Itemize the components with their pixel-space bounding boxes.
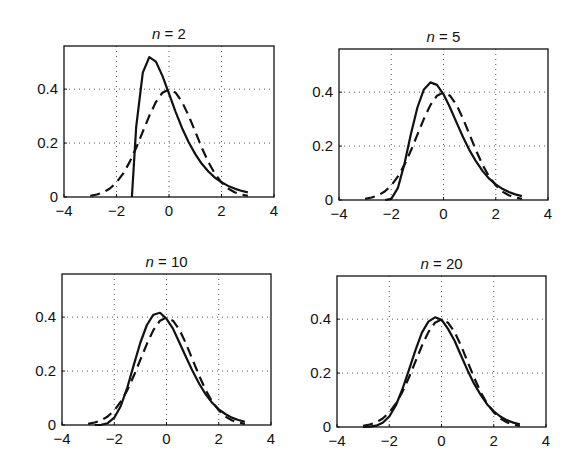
- y-tick-label: 0: [48, 416, 56, 433]
- x-tick-label: 4: [542, 432, 550, 449]
- y-tick-label: 0.2: [37, 134, 58, 151]
- x-tick-label: 2: [492, 205, 500, 222]
- subplot-n20: n = 20 −4−202400.20.4: [310, 255, 550, 449]
- x-tick-label: −4: [53, 430, 70, 447]
- y-tick-label: 0.2: [310, 364, 331, 381]
- y-tick-label: 0.4: [310, 310, 331, 327]
- x-tick-label: −4: [55, 202, 72, 219]
- x-tick-label: 0: [437, 432, 445, 449]
- subplot-title: n = 5: [427, 28, 461, 45]
- normal-curve-dashed: [88, 317, 245, 423]
- y-tick-label: 0: [323, 418, 331, 435]
- subplot-title: n = 20: [420, 255, 462, 272]
- x-tick-label: 4: [270, 202, 278, 219]
- subplot-n2: n = 2 −4−202400.20.4: [37, 25, 278, 219]
- x-tick-label: −4: [330, 205, 347, 222]
- x-tick-label: 4: [544, 205, 552, 222]
- y-tick-label: 0: [325, 191, 333, 208]
- x-tick-label: −2: [108, 202, 125, 219]
- x-tick-label: 2: [217, 202, 225, 219]
- x-tick-label: −4: [328, 432, 345, 449]
- y-tick-label: 0.4: [312, 83, 333, 100]
- y-tick-label: 0: [50, 188, 58, 205]
- x-tick-label: 2: [215, 430, 223, 447]
- normal-curve-dashed: [365, 92, 522, 198]
- x-tick-label: 0: [162, 430, 170, 447]
- subplot-n10: n = 10 −4−202400.20.4: [35, 253, 275, 447]
- x-tick-label: 4: [267, 430, 275, 447]
- subplot-title: n = 10: [145, 253, 187, 270]
- x-tick-label: −2: [383, 205, 400, 222]
- y-tick-label: 0.2: [312, 137, 333, 154]
- x-tick-label: −2: [106, 430, 123, 447]
- normal-curve-dashed: [363, 319, 520, 425]
- x-tick-label: −2: [381, 432, 398, 449]
- y-tick-label: 0.4: [35, 308, 56, 325]
- sum-density-curve: [363, 317, 520, 427]
- subplot-n5: n = 5 −4−202400.20.4: [312, 28, 552, 222]
- sum-density-curve: [132, 57, 248, 197]
- x-tick-label: 0: [165, 202, 173, 219]
- subplot-title: n = 2: [152, 25, 186, 42]
- y-tick-label: 0.4: [37, 80, 58, 97]
- x-tick-label: 2: [490, 432, 498, 449]
- figure: n = 2 −4−202400.20.4 n = 5 −4−202400.20.…: [0, 0, 582, 470]
- x-tick-label: 0: [439, 205, 447, 222]
- y-tick-label: 0.2: [35, 362, 56, 379]
